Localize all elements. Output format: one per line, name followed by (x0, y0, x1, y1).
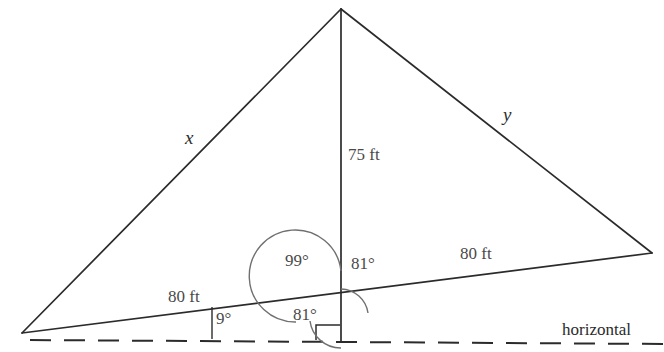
label-angle-9: 9° (216, 310, 231, 327)
label-angle-81-upper: 81° (351, 255, 375, 272)
triangle-side-y-line (341, 9, 652, 253)
triangle-side-x-line (22, 9, 341, 333)
label-horizontal: horizontal (562, 321, 631, 338)
label-angle-99: 99° (285, 252, 309, 269)
label-base-right-80ft: 80 ft (460, 245, 492, 262)
label-angle-81-lower: 81° (293, 306, 317, 323)
horizontal-dashed-line (30, 340, 664, 344)
label-side-y: y (503, 105, 511, 124)
right-angle-marker (316, 325, 340, 340)
label-altitude-75ft: 75 ft (348, 146, 380, 163)
label-side-x: x (185, 128, 193, 147)
geometry-diagram: x y 75 ft 80 ft 80 ft 9° 99° 81° 81° hor… (0, 0, 664, 352)
base-line (22, 253, 652, 333)
diagram-canvas (0, 0, 664, 352)
label-base-left-80ft: 80 ft (168, 288, 200, 305)
